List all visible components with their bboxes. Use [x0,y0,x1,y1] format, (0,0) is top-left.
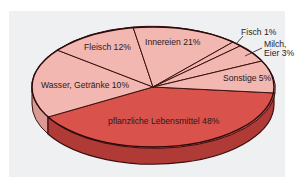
label-fisch: Fisch 1% [241,27,277,37]
label-sonstige: Sonstige 5% [223,73,272,83]
label-innereien: Innereien 21% [145,37,201,47]
label-wasser: Wasser, Getränke 10% [41,80,129,90]
label-milch-line2: Eier 3% [264,48,294,58]
label-fleisch: Fleisch 12% [84,42,131,52]
pie-chart: Fleisch 12% Innereien 21% Fisch 1% Milch… [0,0,304,192]
leader-line-fisch [236,36,243,44]
label-pflanzliche: pflanzliche Lebensmittel 48% [108,116,220,126]
